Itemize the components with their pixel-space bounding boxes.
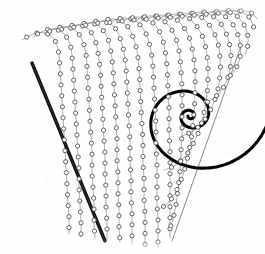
trajectory-marker bbox=[175, 18, 179, 22]
trajectory-marker bbox=[161, 40, 165, 44]
trajectory-marker bbox=[207, 23, 211, 27]
trajectory-marker bbox=[179, 71, 183, 75]
trajectory-marker bbox=[79, 221, 83, 225]
trajectory-marker bbox=[231, 23, 235, 27]
trajectory-marker bbox=[58, 61, 62, 65]
trajectory-marker bbox=[77, 177, 81, 181]
trajectory-marker bbox=[161, 204, 165, 208]
trajectory-marker bbox=[134, 45, 138, 49]
trajectory-marker bbox=[167, 106, 171, 110]
trajectory-marker bbox=[205, 56, 209, 60]
trajectory-marker bbox=[128, 135, 132, 139]
trajectory-marker bbox=[60, 105, 64, 109]
trajectory-marker bbox=[90, 152, 94, 156]
trajectory-marker bbox=[150, 53, 154, 57]
trajectory-marker bbox=[167, 117, 171, 121]
trajectory-marker bbox=[186, 151, 190, 155]
trajectory-marker bbox=[142, 176, 146, 180]
trajectory-marker bbox=[166, 84, 170, 88]
trajectory-marker bbox=[187, 131, 191, 135]
trajectory-marker bbox=[218, 54, 222, 58]
trajectory-marker bbox=[35, 32, 39, 36]
trajectory-marker bbox=[216, 11, 220, 15]
trajectory-marker bbox=[85, 75, 89, 79]
trajectory-marker bbox=[180, 115, 184, 119]
trajectory-marker bbox=[101, 29, 105, 33]
trajectory-marker bbox=[115, 159, 119, 163]
trajectory-marker bbox=[224, 15, 228, 19]
trajectory-marker bbox=[182, 26, 186, 30]
trajectory-marker bbox=[192, 13, 196, 17]
trajectory-marker bbox=[92, 218, 96, 222]
trajectory-marker bbox=[174, 38, 178, 42]
trajectory-marker bbox=[65, 193, 69, 197]
trajectory-marker bbox=[67, 226, 71, 230]
trajectory-marker bbox=[216, 43, 220, 47]
trajectory-marker bbox=[190, 47, 194, 51]
trajectory-marker bbox=[169, 197, 173, 201]
trajectory-marker bbox=[85, 64, 89, 68]
trajectory-marker bbox=[86, 86, 90, 90]
trajectory-marker bbox=[111, 71, 115, 75]
trajectory-marker bbox=[250, 11, 254, 15]
trajectory-marker bbox=[115, 137, 119, 141]
trajectory-marker bbox=[156, 218, 160, 222]
trajectory-marker bbox=[151, 21, 155, 25]
trajectory-marker bbox=[58, 72, 62, 76]
trajectory-marker bbox=[78, 199, 82, 203]
trajectory-marker bbox=[72, 89, 76, 93]
trajectory-marker bbox=[143, 220, 147, 224]
trajectory-marker bbox=[178, 60, 182, 64]
trajectory-marker bbox=[126, 102, 130, 106]
trajectory-marker bbox=[187, 36, 191, 40]
trajectory-marker bbox=[187, 17, 191, 21]
trajectory-marker bbox=[156, 240, 160, 244]
trajectory-marker bbox=[168, 150, 172, 154]
trajectory-marker bbox=[204, 12, 208, 16]
trajectory-marker bbox=[228, 43, 232, 47]
trajectory-marker bbox=[130, 223, 134, 227]
trajectory-marker bbox=[88, 119, 92, 123]
trajectory-marker bbox=[48, 29, 52, 33]
trajectory-marker bbox=[209, 107, 213, 111]
trajectory-marker bbox=[218, 65, 222, 69]
trajectory-marker bbox=[155, 163, 159, 167]
trajectory-marker bbox=[116, 170, 120, 174]
trajectory-marker bbox=[130, 212, 134, 216]
trajectory-marker bbox=[53, 39, 57, 43]
trajectory-marker bbox=[229, 53, 233, 57]
trajectory-marker bbox=[165, 62, 169, 66]
trajectory-marker bbox=[69, 45, 73, 49]
trajectory-marker bbox=[130, 234, 134, 238]
trajectory-marker bbox=[108, 20, 112, 24]
trajectory-marker bbox=[102, 139, 106, 143]
trajectory-marker bbox=[169, 224, 173, 228]
trajectory-marker bbox=[98, 62, 102, 66]
trajectory-marker bbox=[131, 34, 135, 38]
trajectory-marker bbox=[71, 67, 75, 71]
trajectory-marker bbox=[196, 131, 200, 135]
trajectory-marker bbox=[156, 229, 160, 233]
trajectory-marker bbox=[128, 157, 132, 161]
trajectory-marker bbox=[214, 94, 218, 98]
trajectory-marker bbox=[206, 100, 210, 104]
trajectory-marker bbox=[76, 155, 80, 159]
trajectory-marker bbox=[245, 44, 249, 48]
trajectory-marker bbox=[73, 111, 77, 115]
trajectory-marker bbox=[103, 161, 107, 165]
trajectory-marker bbox=[75, 133, 79, 137]
trajectory-marker bbox=[180, 82, 184, 86]
trajectory-marker bbox=[87, 97, 91, 101]
trajectory-marker bbox=[219, 22, 223, 26]
trajectory-marker bbox=[113, 27, 117, 31]
trajectory-marker bbox=[180, 14, 184, 18]
trajectory-marker bbox=[163, 20, 167, 24]
trajectory-marker bbox=[70, 56, 74, 60]
trajectory-marker bbox=[200, 15, 204, 19]
trajectory-marker bbox=[132, 18, 136, 22]
trajectory-marker bbox=[168, 172, 172, 176]
trajectory-marker bbox=[165, 73, 169, 77]
trajectory-marker bbox=[224, 32, 228, 36]
trajectory-marker bbox=[116, 192, 120, 196]
trajectory-marker bbox=[228, 10, 232, 14]
